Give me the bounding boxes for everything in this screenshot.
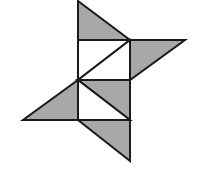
bottom-triangle	[78, 120, 130, 161]
left-triangle	[23, 80, 78, 120]
top-triangle	[78, 1, 130, 40]
right-triangle	[130, 40, 185, 80]
pinwheel-diagram	[0, 0, 197, 169]
